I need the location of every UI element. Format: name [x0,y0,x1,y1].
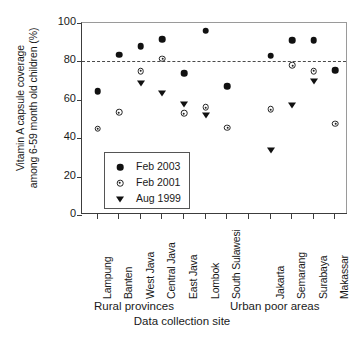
y-axis-title-line1: Vitamin A capsule coverage [14,45,26,171]
x-tick-label-jakarta: Jakarta [274,266,286,299]
y-tick-label-80: 80 [46,53,76,65]
data-point-feb-2001-east-java [181,110,188,117]
y-axis-title-line2: among 6-59 month old children (%) [27,2,40,214]
data-point-feb-2003-central-java [159,36,166,43]
x-tick-label-makassar: Makassar [338,255,350,299]
data-point-feb-2003-south-sulawesi [224,83,231,90]
x-axis-title: Data collection site [0,315,364,327]
data-point-aug-1999-semarang [288,102,296,108]
data-point-aug-1999-jakarta [267,147,275,153]
y-tick-label-20: 20 [46,169,76,181]
group-label-urban: Urban poor areas [230,300,320,312]
data-point-feb-2001-jakarta [267,106,274,113]
y-tick-label-40: 40 [46,130,76,142]
data-point-feb-2001-south-sulawesi [224,124,231,131]
x-tick-makassar [334,214,335,219]
vitamin-a-coverage-scatter-chart: Vitamin A capsule coverage among 6-59 mo… [0,0,364,341]
data-point-aug-1999-surabaya [310,78,318,84]
x-tick-south-sulawesi [226,214,227,219]
x-tick-west-java [140,214,141,219]
data-point-feb-2003-west-java [138,43,145,50]
legend-item-aug-1999: Aug 1999 [105,190,189,207]
legend-label-feb-2001: Feb 2001 [136,176,180,188]
data-point-aug-1999-west-java [137,81,145,87]
legend-marker-aug-1999 [116,196,124,202]
data-point-feb-2003-surabaya [311,37,318,44]
legend-item-feb-2001: Feb 2001 [105,174,189,191]
data-point-aug-1999-central-java [158,91,166,97]
data-point-aug-1999-east-java [180,101,188,107]
y-tick-label-0: 0 [46,207,76,219]
y-axis-title: Vitamin A capsule coverage among 6-59 mo… [0,0,46,225]
y-tick-20 [77,177,82,178]
x-tick-east-java [183,214,184,219]
group-label-rural: Rural provinces [94,300,174,312]
x-tick-label-semarang: Semarang [295,252,307,299]
x-tick-label-lombok: Lombok [209,263,221,299]
y-tick-60 [77,100,82,101]
y-tick-100 [77,23,82,24]
x-tick-lombok [205,214,206,219]
x-tick-lampung [97,214,98,219]
data-point-feb-2003-east-java [181,70,188,77]
data-point-aug-1999-lombok [202,113,210,119]
x-tick-label-surabaya: Surabaya [317,256,329,299]
data-point-feb-2003-lampung [94,88,101,95]
x-tick-jakarta [270,214,271,219]
y-tick-label-60: 60 [46,92,76,104]
data-point-feb-2001-makassar [332,121,339,128]
data-point-feb-2003-banten [116,51,123,58]
data-point-feb-2001-lombok [202,104,209,111]
x-tick-surabaya [313,214,314,219]
x-tick-label-central-java: Central Java [165,242,177,299]
data-point-feb-2001-banten [116,109,123,116]
data-point-feb-2003-makassar [332,67,339,74]
y-axis-tick-labels: 020406080100 [44,22,76,214]
data-point-feb-2001-semarang [289,62,296,69]
x-tick-label-south-sulawesi: South Sulawesi [230,229,242,299]
x-tick-label-banten: Banten [122,267,134,299]
data-point-feb-2001-central-java [159,55,166,62]
x-axis-tick-labels: LampungBantenWest JavaCentral JavaEast J… [81,221,347,301]
x-tick-central-java [161,214,162,219]
legend-label-feb-2003: Feb 2003 [136,160,180,172]
data-point-feb-2001-lampung [94,125,101,132]
x-tick-label-east-java: East Java [187,255,199,299]
x-tick-semarang [291,214,292,219]
y-tick-40 [77,138,82,139]
legend-item-feb-2003: Feb 2003 [105,158,189,175]
reference-line-80 [82,61,346,62]
chart-legend: Feb 2003Feb 2001Aug 1999 [104,152,190,209]
data-point-feb-2003-semarang [289,37,296,44]
legend-marker-feb-2001 [117,180,124,187]
data-point-feb-2003-jakarta [267,52,274,59]
x-tick-banten [118,214,119,219]
x-axis-ticks [81,214,347,220]
data-point-feb-2001-surabaya [311,68,318,75]
data-point-feb-2003-lombok [202,27,209,34]
legend-label-aug-1999: Aug 1999 [136,192,181,204]
x-tick-label-west-java: West Java [144,252,156,299]
y-tick-label-100: 100 [46,15,76,27]
x-tick-gap [248,214,249,219]
x-tick-label-lampung: Lampung [101,257,113,299]
legend-marker-feb-2003 [117,164,124,171]
data-point-feb-2001-west-java [138,68,145,75]
